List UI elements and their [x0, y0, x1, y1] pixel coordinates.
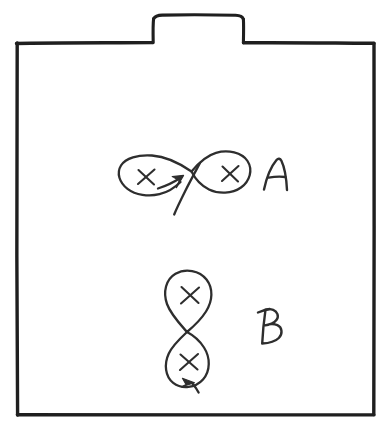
figure-b-bottom-x-mark [180, 354, 198, 370]
figure-a-tail [174, 163, 200, 215]
figure-a-label [264, 159, 287, 190]
sketch-canvas: A B A hand-drawn rectangular box with a … [0, 0, 388, 432]
outer-box-frame [17, 43, 375, 416]
top-tab [153, 15, 244, 43]
figure-a-left-x-mark [138, 170, 155, 185]
letter-a-glyph [264, 159, 287, 190]
figure-b-top-loop [165, 271, 211, 332]
letter-b-glyph [262, 309, 281, 343]
figure-a-right-loop [192, 151, 251, 192]
tab-top-edge [154, 15, 244, 19]
figure-b-top-x-mark [181, 287, 199, 304]
hand-drawn-diagram [0, 0, 388, 432]
box-right-edge [374, 43, 375, 414]
letter-a-crossbar [269, 177, 286, 178]
box-top-edge-right [244, 43, 375, 44]
figure-a [119, 151, 287, 214]
figure-a-right-x-mark [222, 166, 239, 182]
box-top-edge-left [17, 43, 153, 44]
figure-b-label [258, 309, 282, 344]
figure-b [165, 271, 281, 393]
box-left-edge [17, 43, 18, 415]
